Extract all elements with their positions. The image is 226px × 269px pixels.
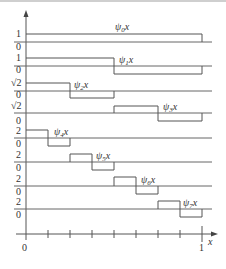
row-psi5: 2 0 ψ5x — [14, 149, 212, 173]
y-axis-arrow-icon — [24, 10, 29, 17]
row-psi2: √2 0 ψ2x — [11, 77, 212, 100]
row-psi1-function-label: ψ1x — [119, 54, 134, 67]
row-psi0-function-label: ψ0x — [115, 21, 130, 34]
row-psi0-top-label: 1 — [16, 28, 21, 39]
row-psi7-function-label: ψ7x — [183, 197, 198, 210]
row-psi7-top-label: 2 — [16, 196, 21, 207]
row-psi0-zero-label: 0 — [16, 41, 21, 52]
row-psi7-zero-label: 0 — [16, 209, 21, 220]
row-psi6-top-label: 2 — [16, 173, 21, 184]
row-psi4-top-label: 2 — [16, 125, 21, 136]
row-psi4-function-label: ψ4x — [54, 126, 69, 139]
row-psi5-zero-label: 0 — [16, 162, 21, 173]
row-psi6-function-label: ψ6x — [141, 174, 156, 187]
row-psi4-zero-label: 0 — [16, 138, 21, 149]
row-psi6: 2 0 ψ6x — [14, 173, 212, 197]
row-psi5-function-label: ψ5x — [96, 150, 111, 163]
origin-label: 0 — [22, 242, 27, 253]
row-psi1-top-label: 1 — [16, 52, 21, 63]
row-psi5-top-label: 2 — [16, 149, 21, 160]
row-psi4: 2 0 ψ4x — [14, 125, 212, 149]
row-psi3-function-label: ψ3x — [163, 101, 178, 114]
row-psi2-top-label: √2 — [11, 77, 22, 88]
row-psi3: √2 0 ψ3x — [11, 100, 212, 126]
row-psi2-zero-label: 0 — [16, 89, 21, 100]
row-psi2-function-label: ψ2x — [74, 79, 89, 92]
row-psi0: 1 0 ψ0x — [14, 21, 212, 52]
haar-function-diagram: 0 1 x 1 0 ψ0x 1 0 ψ1x √2 0 ψ2x √2 0 ψ3x … — [0, 0, 226, 269]
row-psi1-zero-label: 0 — [16, 64, 21, 75]
row-psi3-top-label: √2 — [11, 100, 22, 111]
row-psi1: 1 0 ψ1x — [14, 52, 212, 75]
x-end-label: 1 — [199, 242, 204, 253]
row-psi7: 2 0 ψ7x — [14, 196, 212, 220]
x-axis-label: x — [207, 236, 213, 247]
